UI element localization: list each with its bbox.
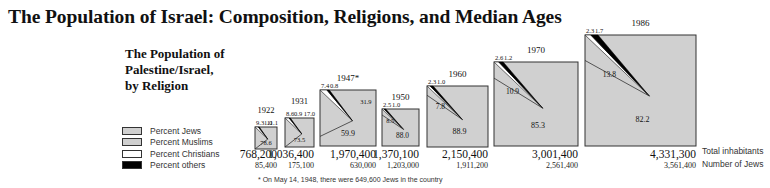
total-inhabitants-value: 3,001,400 [532, 148, 578, 160]
others-value: 0.8 [330, 82, 338, 89]
number-of-jews-value: 630,000 [350, 161, 376, 170]
muslims-value: 7.8 [436, 102, 446, 111]
christians-value: 2.6 [495, 54, 504, 61]
total-inhabitants-value: 2,150,400 [442, 148, 488, 160]
jews-value: 82.2 [636, 115, 650, 124]
christians-value: 2.3 [428, 78, 436, 85]
year-chart-1970: 19702.61.210.985.3 [494, 45, 578, 146]
christians-value: 2.5 [383, 101, 391, 108]
christians-value: 2.3 [586, 27, 594, 34]
total-inhabitants-value: 1,036,400 [268, 148, 314, 160]
number-of-jews-value: 2,561,400 [546, 161, 578, 170]
muslims-value: 13.8 [603, 70, 616, 79]
jews-value: 88.0 [396, 131, 409, 140]
jews-value: 85.3 [531, 121, 545, 130]
christians-value: 9.3 [256, 119, 264, 126]
year-chart-1947: 1947*7.40.859.931.9 [320, 73, 376, 146]
muslims-value: 8.5 [386, 118, 394, 124]
total-inhabitants-label: Total inhabitants [702, 146, 763, 156]
jews-value: 31.9 [360, 98, 371, 105]
total-inhabitants-value: 4,331,300 [650, 148, 696, 160]
jews-value: 17.0 [304, 110, 315, 117]
footnote: * On May 14, 1948, there were 649,600 Je… [258, 176, 442, 183]
jews-value: 11.1 [267, 119, 278, 126]
others-value: 0.9 [294, 110, 302, 117]
number-of-jews-value: 175,100 [288, 161, 314, 170]
year-label: 1960 [449, 69, 468, 79]
muslims-value: 73.5 [294, 136, 305, 143]
year-chart-1931: 19318.60.973.517.0 [285, 96, 315, 147]
year-label: 1947* [337, 73, 360, 83]
number-of-jews-value: 85,400 [255, 161, 277, 170]
number-of-jews-value: 1,911,200 [456, 161, 488, 170]
year-chart-1960: 19602.31.07.888.9 [427, 69, 488, 147]
number-of-jews-label: Number of Jews [702, 159, 763, 169]
year-label: 1922 [258, 105, 275, 115]
muslims-value: 59.9 [341, 129, 355, 138]
year-chart-1950: 19502.51.08.588.0 [382, 92, 419, 146]
year-chart-1986: 19862.31.713.882.2 [585, 18, 696, 146]
year-label: 1986 [632, 18, 651, 28]
others-value: 1.0 [392, 101, 400, 108]
year-label: 1931 [291, 96, 308, 106]
muslims-value: 78.6 [260, 139, 272, 146]
total-inhabitants-value: 1,370,100 [373, 148, 419, 160]
year-label: 1970 [527, 45, 546, 55]
year-chart-1922: 19229.31.078.611.1 [255, 105, 278, 149]
total-inhabitants-value: 1,970,400 [330, 148, 376, 160]
others-value: 1.7 [595, 27, 604, 34]
jews-value: 88.9 [453, 127, 467, 136]
muslims-value: 10.9 [506, 87, 519, 96]
number-of-jews-value: 1,203,000 [387, 161, 419, 170]
number-of-jews-value: 3,561,400 [664, 161, 696, 170]
others-value: 1.0 [437, 78, 445, 85]
christians-value: 7.4 [321, 82, 330, 89]
others-value: 1.2 [504, 54, 512, 61]
